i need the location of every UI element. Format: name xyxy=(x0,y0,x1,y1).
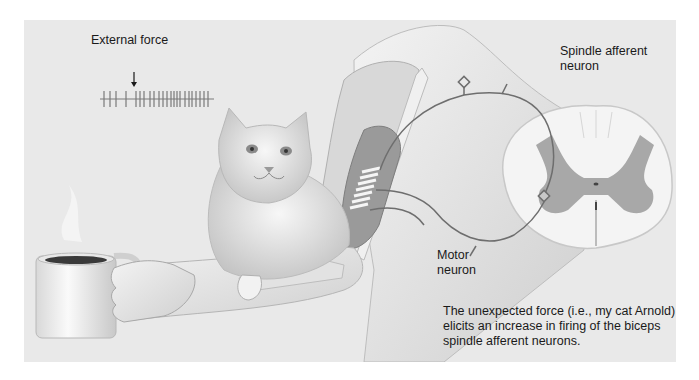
figure-panel: External force Spindle afferent neuron M… xyxy=(24,20,676,362)
caption-line: elicits an increase in firing of the bic… xyxy=(443,319,675,334)
caption-line: The unexpected force (i.e., my cat Arnol… xyxy=(443,304,675,319)
caption-line: spindle afferent neurons. xyxy=(443,334,675,349)
figure-caption: The unexpected force (i.e., my cat Arnol… xyxy=(443,304,675,349)
external-force-label: External force xyxy=(91,33,168,48)
spindle-afferent-neuron-label: Spindle afferent neuron xyxy=(560,44,647,74)
spike-train xyxy=(100,91,214,107)
motor-neuron-label: Motor neuron xyxy=(437,248,476,278)
down-arrow-icon xyxy=(131,72,137,87)
